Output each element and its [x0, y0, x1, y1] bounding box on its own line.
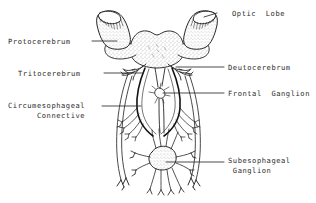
- circumesophageal-connective-right: [164, 68, 180, 136]
- optic-lobe-left: [97, 11, 131, 50]
- protocerebrum: [130, 31, 184, 68]
- label-frontal-ganglion: Frontal Ganglion: [228, 89, 310, 99]
- label-circumesophageal-connective: Circumesophageal Connective: [8, 101, 85, 120]
- label-optic-lobe: Optic Lobe: [232, 9, 285, 19]
- circumesophageal-connective-left: [137, 68, 153, 136]
- nerve-endings-lower: [117, 178, 200, 190]
- deutocerebrum: [168, 64, 193, 80]
- recurrent-nerve: [159, 99, 160, 133]
- optic-lobe-right: [184, 11, 218, 50]
- label-deutocerebrum: Deutocerebrum: [228, 63, 291, 73]
- nerve-branches: [117, 108, 200, 141]
- brain-body: [97, 11, 218, 195]
- label-tritocerebrum: Tritocerebrum: [18, 69, 81, 79]
- frontal-ganglion: [149, 68, 170, 103]
- recurrent-nerve-2: [163, 99, 164, 133]
- figure-canvas: Optic Lobe Protocerebrum Deutocerebrum T…: [0, 0, 316, 203]
- label-protocerebrum: Protocerebrum: [8, 37, 71, 47]
- label-subesophageal-ganglion: Subesophageal Ganglion: [228, 156, 291, 175]
